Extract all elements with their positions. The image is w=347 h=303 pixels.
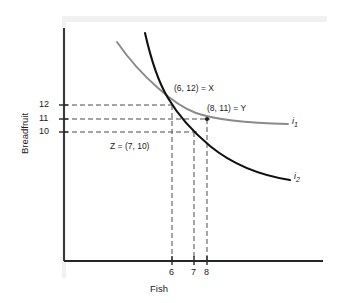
y-axis-title: Breadfruit [19,99,30,169]
x-axis-title: Fish [150,283,168,294]
annotation-point-y: (8, 11) = Y [207,104,246,113]
x-tick-label-8: 8 [204,268,209,277]
point-marker-y [205,117,209,121]
x-tick-label-6: 6 [169,268,174,277]
y-tick-label-10: 10 [39,127,49,136]
y-tick-label-11: 11 [39,114,48,123]
vertical-guide-lines [172,105,207,261]
curve-label-i1: i1 [292,116,298,128]
x-tick-label-7: 7 [191,268,196,277]
y-tick-label-12: 12 [39,100,49,109]
curve-label-i2-sub: 2 [296,176,300,183]
curve-label-i2: i2 [294,171,300,183]
curve-label-i1-sub: 1 [294,121,298,128]
annotation-point-z: Z = (7, 10) [110,142,149,151]
chart-canvas [0,0,347,303]
annotation-point-x: (6, 12) = X [174,84,214,93]
indifference-curve-figure: 12 11 10 6 7 8 (6, 12) = X (8, 11) = Y Z… [0,0,347,303]
